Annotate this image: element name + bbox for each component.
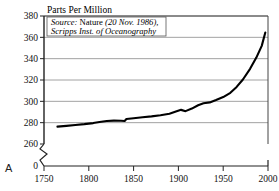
panel-letter-a: A	[5, 162, 13, 174]
x-tick-label: 1950	[214, 174, 233, 184]
x-tick-label: 1750	[35, 174, 54, 184]
y-axis-title: Parts Per Million	[47, 5, 112, 15]
y-axis-tick-labels: 260280300320340360380	[24, 11, 39, 149]
y-tick-label: 340	[24, 54, 39, 64]
x-tick-label: 1900	[169, 174, 188, 184]
y-tick-label: 380	[24, 11, 39, 21]
y-tick-label: 280	[24, 118, 39, 128]
x-tick-label: 1800	[79, 174, 98, 184]
co2-concentration-figure: 260280300320340360380 175018001850190019…	[0, 0, 279, 191]
chart-canvas: 260280300320340360380 175018001850190019…	[0, 0, 279, 191]
y-axis-zero-label: 0	[33, 161, 38, 171]
y-tick-label: 360	[24, 33, 39, 43]
x-tick-label: 1850	[124, 174, 143, 184]
y-axis-break-zigzag	[40, 144, 47, 166]
y-tick-label: 320	[24, 75, 39, 85]
y-tick-label: 260	[24, 139, 39, 149]
x-axis-ticks	[44, 166, 268, 171]
x-tick-label: 2000	[259, 174, 278, 184]
x-axis-tick-labels: 175018001850190019502000	[35, 174, 278, 184]
source-note-line-2: Scripps Inst. of Oceanography	[51, 26, 156, 36]
y-tick-label: 300	[24, 97, 39, 107]
